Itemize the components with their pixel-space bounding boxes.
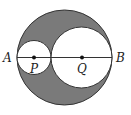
geometry-diagram: A B P Q: [0, 0, 131, 115]
label-b: B: [115, 51, 125, 65]
point-p-dot: [32, 56, 36, 60]
label-a: A: [2, 51, 12, 65]
label-q: Q: [77, 62, 87, 76]
point-q-dot: [80, 56, 84, 60]
label-p: P: [29, 62, 39, 76]
